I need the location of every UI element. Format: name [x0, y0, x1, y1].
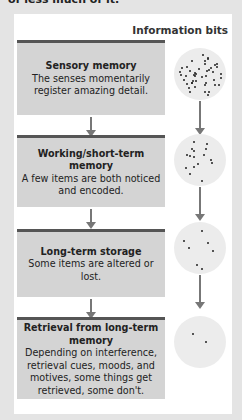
arrow-down-icon: [199, 101, 201, 129]
info-bit-dot: [210, 67, 212, 69]
info-bit-dot: [191, 82, 193, 84]
info-bit-dot: [204, 60, 206, 62]
stage-body: Some items are altered or lost.: [20, 258, 162, 283]
info-bit-dot: [194, 75, 196, 77]
info-bits-circle-sensory: [174, 48, 226, 100]
arrow-down-icon: [90, 117, 92, 131]
info-bit-dot: [201, 76, 203, 78]
info-bit-dot: [202, 54, 204, 56]
info-bit-dot: [207, 58, 209, 60]
info-bit-dot: [183, 79, 185, 81]
info-bit-dot: [191, 60, 193, 62]
figure-caption: of less much of it.: [8, 0, 119, 6]
info-bit-dot: [188, 87, 190, 89]
stage-title: Long-term storage: [20, 246, 162, 259]
info-bit-dot: [218, 84, 220, 86]
info-bit-dot: [203, 154, 205, 156]
info-bit-dot: [198, 68, 200, 70]
info-bits-circle-long-term: [174, 222, 226, 274]
arrow-down-icon: [90, 209, 92, 223]
stage-long-term-storage: Long-term storage Some items are altered…: [17, 229, 165, 297]
info-bit-dot: [205, 148, 207, 150]
info-bit-dot: [192, 333, 194, 335]
info-bit-dot: [189, 155, 191, 157]
info-bit-dot: [179, 71, 181, 73]
stage-body: A few items are both noticed and encoded…: [20, 173, 162, 198]
info-bit-dot: [201, 230, 203, 232]
arrow-down-icon: [199, 187, 201, 215]
info-bit-dot: [189, 91, 191, 93]
info-bit-dot: [193, 166, 195, 168]
info-bit-dot: [216, 66, 218, 68]
info-bit-dot: [214, 84, 216, 86]
info-bit-dot: [204, 63, 206, 65]
info-bit-dot: [213, 79, 215, 81]
info-bit-dot: [194, 86, 196, 88]
arrow-down-icon: [90, 299, 92, 313]
stage-title: Retrieval from long-term memory: [20, 322, 162, 347]
stage-body: Depending on interference, retrieval cue…: [20, 347, 162, 397]
information-bits-header: Information bits: [132, 24, 228, 36]
info-bit-dot: [204, 91, 206, 93]
info-bit-dot: [216, 63, 218, 65]
info-bit-dot: [195, 80, 197, 82]
info-bit-dot: [220, 77, 222, 79]
info-bit-dot: [193, 150, 195, 152]
info-bit-dot: [186, 154, 188, 156]
info-bit-dot: [185, 75, 187, 77]
info-bit-dot: [208, 69, 210, 71]
info-bit-dot: [197, 163, 199, 165]
info-bit-dot: [201, 180, 203, 182]
info-bit-dot: [181, 67, 183, 69]
info-bit-dot: [186, 83, 188, 85]
info-bit-dot: [206, 143, 208, 145]
info-bit-dot: [185, 167, 187, 169]
info-bit-dot: [193, 141, 195, 143]
info-bits-circle-retrieval: [174, 316, 226, 368]
info-bit-dot: [189, 173, 191, 175]
info-bit-dot: [196, 264, 198, 266]
diagram-panel: Information bits Sensory memory The sens…: [14, 14, 232, 414]
info-bit-dot: [205, 75, 207, 77]
info-bit-dot: [193, 156, 195, 158]
info-bit-dot: [201, 268, 203, 270]
info-bit-dot: [210, 159, 212, 161]
stage-working-memory: Working/short-term memory A few items ar…: [17, 135, 165, 207]
info-bit-dot: [189, 70, 191, 72]
info-bit-dot: [207, 242, 209, 244]
stage-title: Working/short-term memory: [20, 148, 162, 173]
info-bit-dot: [211, 162, 213, 164]
info-bit-dot: [188, 247, 190, 249]
info-bit-dot: [212, 250, 214, 252]
info-bit-dot: [212, 71, 214, 73]
stage-sensory-memory: Sensory memory The senses momentarily re…: [17, 40, 165, 115]
info-bit-dot: [208, 91, 210, 93]
arrow-down-icon: [199, 275, 201, 303]
info-bit-dot: [205, 341, 207, 343]
stage-retrieval: Retrieval from long-term memory Dependin…: [17, 317, 165, 399]
info-bits-circle-working: [174, 134, 226, 186]
stage-body: The senses momentarily register amazing …: [20, 73, 162, 98]
info-bit-dot: [186, 66, 188, 68]
stage-title: Sensory memory: [20, 60, 162, 73]
info-bit-dot: [204, 84, 206, 86]
info-bit-dot: [207, 94, 209, 96]
info-bit-dot: [180, 74, 182, 76]
info-bit-dot: [220, 73, 222, 75]
info-bit-dot: [183, 240, 185, 242]
